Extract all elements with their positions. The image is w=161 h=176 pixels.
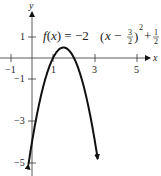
function-equation: f(x) = −2 ( x − 3 2 ) 2 + 1 2 <box>43 23 159 46</box>
parabola-curve <box>28 48 97 165</box>
x-axis-label: x <box>152 52 158 63</box>
svg-text:f(x) = −2: f(x) = −2 <box>43 28 89 43</box>
y-axis-label: y <box>28 0 34 11</box>
svg-text:2: 2 <box>139 23 143 32</box>
y-tick-label: −5 <box>14 157 25 168</box>
svg-text:+: + <box>144 28 151 43</box>
svg-text:2: 2 <box>154 37 158 46</box>
svg-text:x −: x − <box>104 28 121 43</box>
x-tick-label: 5 <box>134 64 139 75</box>
y-tick-label: −1 <box>14 73 25 84</box>
svg-text:2: 2 <box>128 37 132 46</box>
svg-text:3: 3 <box>128 28 132 37</box>
x-tick-label: 3 <box>92 64 97 75</box>
y-tick-label: −3 <box>14 115 25 126</box>
y-tick-label: 1 <box>20 31 25 42</box>
svg-text:1: 1 <box>154 28 158 37</box>
x-tick-label: 1 <box>51 64 56 75</box>
parabola-chart: x y −1 1 3 5 1 −1 −3 −5 f(x) = −2 ( x − … <box>0 0 161 176</box>
svg-text:(: ( <box>100 29 104 44</box>
svg-text:): ) <box>134 29 138 44</box>
